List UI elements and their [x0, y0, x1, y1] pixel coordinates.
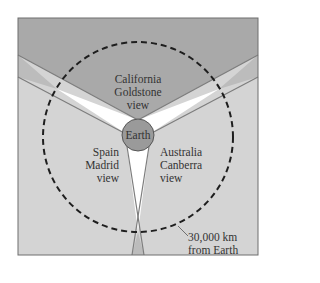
canberra-line: Canberra — [160, 159, 230, 172]
california-line: California — [98, 73, 178, 86]
distance-line: 30,000 km — [188, 231, 263, 244]
madrid-line: Madrid — [62, 159, 119, 172]
view-line: view — [98, 99, 178, 112]
view-line: view — [160, 172, 230, 185]
california-label: California Goldstone view — [98, 73, 178, 112]
distance-annotation: 30,000 km from Earth — [188, 231, 263, 257]
earth-label: Earth — [118, 129, 158, 142]
australia-label: Australia Canberra view — [160, 146, 230, 185]
view-line: view — [62, 172, 119, 185]
australia-line: Australia — [160, 146, 230, 159]
from-earth-line: from Earth — [188, 244, 263, 257]
goldstone-line: Goldstone — [98, 86, 178, 99]
spain-label: Spain Madrid view — [62, 146, 119, 185]
spain-line: Spain — [62, 146, 119, 159]
